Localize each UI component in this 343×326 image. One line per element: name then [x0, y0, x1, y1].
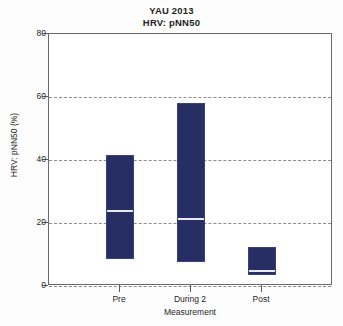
plot-inner [49, 34, 331, 284]
y-axis-tick-label: 80 [6, 28, 46, 38]
x-axis-tick-label: Post [221, 294, 301, 304]
bar-pre [106, 155, 134, 259]
y-axis-tick-label: 0 [6, 280, 46, 290]
y-axis-title: HRV: pNN50 (%) [9, 85, 19, 205]
y-axis-tick-label: 20 [6, 217, 46, 227]
chart-figure: YAU 2013 HRV: pNN50 HRV: pNN50 (%) 02040… [0, 0, 343, 326]
bar-during-2 [177, 103, 205, 262]
bar-post [248, 247, 276, 275]
y-axis-tick-label: 40 [6, 154, 46, 164]
x-axis-tick [119, 285, 120, 292]
chart-title: YAU 2013 [0, 5, 343, 17]
x-axis-tick-label: Pre [79, 294, 159, 304]
x-axis-title: Measurement [48, 307, 332, 317]
y-axis-tick-label: 60 [6, 91, 46, 101]
median-line [107, 210, 133, 212]
x-axis-tick-label: During 2 [150, 294, 230, 304]
x-axis-tick [190, 285, 191, 292]
chart-title-block: YAU 2013 HRV: pNN50 [0, 5, 343, 29]
plot-area [48, 33, 332, 285]
median-line [249, 270, 275, 272]
gridline [49, 97, 331, 98]
x-axis-tick [261, 285, 262, 292]
chart-subtitle: HRV: pNN50 [0, 17, 343, 29]
median-line [178, 218, 204, 220]
